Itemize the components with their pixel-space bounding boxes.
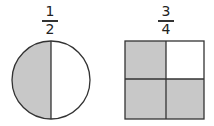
shaded-bottom-left — [125, 79, 166, 119]
quarter-square-figure — [125, 41, 204, 119]
shaded-half — [12, 41, 51, 119]
shaded-top-left — [125, 41, 166, 79]
half-circle-figure — [12, 41, 90, 119]
shaded-bottom-right — [166, 79, 204, 119]
fraction-diagrams — [0, 0, 214, 126]
